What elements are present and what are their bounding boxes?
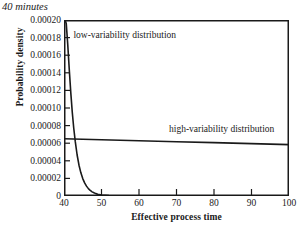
series-line xyxy=(64,20,289,196)
y-tick-label: 0.00014 xyxy=(30,68,61,78)
data-series-group xyxy=(64,20,289,196)
axis-frame xyxy=(65,21,289,196)
y-tick-label: 0.00002 xyxy=(30,173,61,183)
x-tick-label: 40 xyxy=(49,198,79,208)
x-axis-label: Effective process time xyxy=(64,212,289,222)
x-tick-label: 90 xyxy=(237,198,267,208)
y-tick-label: 0.00006 xyxy=(30,138,61,148)
plot-area xyxy=(64,20,289,196)
y-tick-label: 0.00020 xyxy=(30,15,61,25)
x-tick-label: 60 xyxy=(124,198,154,208)
y-tick-label: 0.00004 xyxy=(30,156,61,166)
chart-figure: 40 minutes Probability density 00.000020… xyxy=(0,0,303,227)
x-axis-tick-labels: 405060708090100 xyxy=(64,198,289,212)
x-tick-label: 80 xyxy=(199,198,229,208)
x-tick-label: 70 xyxy=(162,198,192,208)
x-tick-label: 50 xyxy=(87,198,117,208)
y-tick-label: 0.00018 xyxy=(30,33,61,43)
y-tick-label: 0.00016 xyxy=(30,50,61,60)
y-axis-tick-labels: 00.000020.000040.000060.000080.000100.00… xyxy=(0,0,61,227)
series-line xyxy=(64,139,289,145)
annotation-high-variability: high-variability distribution xyxy=(169,124,274,135)
x-tick-label: 100 xyxy=(274,198,303,208)
plot-svg xyxy=(64,20,289,196)
y-tick-label: 0.00008 xyxy=(30,121,61,131)
y-tick-label: 0.00012 xyxy=(30,85,61,95)
y-tick-label: 0.00010 xyxy=(30,103,61,113)
annotation-low-variability: low-variability distribution xyxy=(73,30,176,41)
